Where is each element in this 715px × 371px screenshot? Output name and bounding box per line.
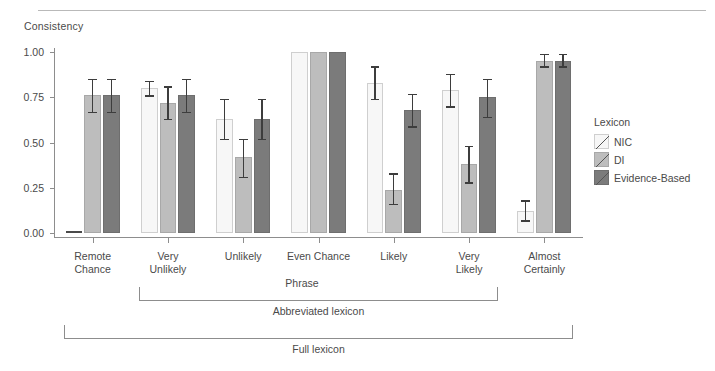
bar[interactable] xyxy=(103,95,120,233)
bar[interactable] xyxy=(555,61,572,233)
x-tick-label: Even Chance xyxy=(287,250,350,263)
x-tick-mark xyxy=(394,238,395,243)
x-tick-label-line: Chance xyxy=(74,263,111,276)
bracket-end-right xyxy=(572,325,573,338)
x-tick-label-line: Remote xyxy=(74,250,111,263)
y-tick-label: 0.00 xyxy=(0,227,44,239)
error-bar-line xyxy=(92,79,93,112)
bar[interactable] xyxy=(329,52,346,233)
bar[interactable] xyxy=(141,88,158,233)
legend-item-ev[interactable]: Evidence-Based xyxy=(594,169,690,186)
x-tick-label-line: Likely xyxy=(380,250,407,263)
bracket-line xyxy=(64,338,573,339)
legend: Lexicon NICDIEvidence-Based xyxy=(594,116,690,187)
error-bar-line xyxy=(261,99,262,139)
error-bar-line xyxy=(374,66,375,99)
error-bar-cap-upper xyxy=(88,79,97,80)
y-tick-mark xyxy=(50,97,54,98)
x-tick-label-line: Likely xyxy=(456,263,483,276)
bar[interactable] xyxy=(178,95,195,233)
bracket-end-left xyxy=(64,325,65,338)
y-tick-mark xyxy=(50,52,54,53)
x-tick-mark xyxy=(544,238,545,243)
error-bar-cap-upper xyxy=(371,66,380,67)
legend-swatch-icon xyxy=(594,134,609,149)
legend-label: Evidence-Based xyxy=(614,172,690,184)
error-bar-cap-lower xyxy=(371,99,380,100)
error-bar-cap-upper xyxy=(389,173,398,174)
bar[interactable] xyxy=(84,95,101,233)
error-bar-line xyxy=(393,173,394,204)
error-bar-line xyxy=(450,74,451,107)
bracket-line xyxy=(139,300,497,301)
error-bar-cap-lower xyxy=(182,112,191,113)
bar[interactable] xyxy=(404,110,421,233)
bracket-label: Full lexicon xyxy=(292,343,345,355)
legend-item-nic[interactable]: NIC xyxy=(594,133,690,150)
y-tick-mark xyxy=(50,233,54,234)
y-tick-label: 0.75 xyxy=(0,91,44,103)
x-tick-label-line: Very xyxy=(456,250,483,263)
bracket-label: Abbreviated lexicon xyxy=(273,305,365,317)
x-tick-label-line: Very xyxy=(150,250,187,263)
x-tick-label: VeryUnlikely xyxy=(150,250,187,276)
bar[interactable] xyxy=(66,231,83,233)
bar[interactable] xyxy=(291,52,308,233)
x-tick-label: RemoteChance xyxy=(74,250,111,276)
x-tick-label-line: Even Chance xyxy=(287,250,350,263)
error-bar-cap-upper xyxy=(220,99,229,100)
bar[interactable] xyxy=(160,103,177,233)
error-bar-line xyxy=(487,79,488,117)
bar[interactable] xyxy=(536,61,553,233)
x-tick-label: Unlikely xyxy=(225,250,262,263)
x-tick-label-line: Almost xyxy=(524,250,565,263)
bar[interactable] xyxy=(310,52,327,233)
x-tick-mark xyxy=(93,238,94,243)
error-bar-cap-lower xyxy=(239,177,248,178)
x-tick-mark xyxy=(243,238,244,243)
x-tick-label-line: Certainly xyxy=(524,263,565,276)
legend-swatch-icon xyxy=(594,170,609,185)
error-bar-cap-lower xyxy=(389,204,398,205)
error-bar-line xyxy=(149,81,150,95)
error-bar-line xyxy=(412,94,413,127)
error-bar-cap-lower xyxy=(408,126,417,127)
error-bar-cap-lower xyxy=(483,117,492,118)
error-bar-cap-upper xyxy=(258,99,267,100)
legend-item-di[interactable]: DI xyxy=(594,151,690,168)
bracket-end-right xyxy=(497,287,498,300)
error-bar-line xyxy=(525,200,526,220)
error-bar-cap-upper xyxy=(540,54,549,55)
y-tick-mark xyxy=(50,143,54,144)
bar[interactable] xyxy=(442,90,459,233)
error-bar-line xyxy=(243,139,244,177)
x-tick-mark xyxy=(469,238,470,243)
error-bar-line xyxy=(468,146,469,182)
x-tick-label-line: Unlikely xyxy=(225,250,262,263)
legend-swatch-icon xyxy=(594,152,609,167)
y-tick-label: 0.25 xyxy=(0,182,44,194)
bar[interactable] xyxy=(367,83,384,233)
plot-area xyxy=(55,52,582,233)
error-bar-cap-upper xyxy=(164,86,173,87)
error-bar-cap-upper xyxy=(521,200,530,201)
top-divider xyxy=(38,10,706,11)
chart-figure: Consistency 0.000.250.500.751.00 RemoteC… xyxy=(0,0,715,371)
x-tick-label: VeryLikely xyxy=(456,250,483,276)
y-axis-title: Consistency xyxy=(24,20,83,32)
legend-label: DI xyxy=(614,154,625,166)
error-bar-cap-lower xyxy=(521,220,530,221)
error-bar-line xyxy=(167,86,168,119)
error-bar-cap-lower xyxy=(446,106,455,107)
x-tick-mark xyxy=(168,238,169,243)
y-tick-mark xyxy=(50,188,54,189)
y-tick-label: 1.00 xyxy=(0,46,44,58)
error-bar-cap-upper xyxy=(408,94,417,95)
x-axis-title: Phrase xyxy=(285,277,318,289)
error-bar-cap-upper xyxy=(145,81,154,82)
error-bar-cap-lower xyxy=(164,119,173,120)
error-bar-cap-upper xyxy=(107,79,116,80)
error-bar-cap-upper xyxy=(182,79,191,80)
error-bar-cap-lower xyxy=(107,112,116,113)
x-tick-mark xyxy=(319,238,320,243)
